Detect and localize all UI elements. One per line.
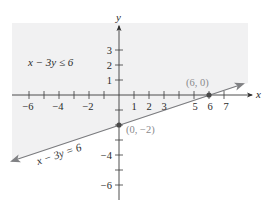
y-tick-label: 3 [107,45,112,56]
inequality-graph: y x −6 −4 −2 1 2 3 5 6 7 3 2 1 −4 −6 (6,… [0,0,265,213]
x-tick-label: 5 [192,101,197,112]
point-0-m2 [116,122,121,127]
shaded-region [12,23,248,161]
x-axis-label: x [255,88,261,100]
point-label-0-m2: (0, −2) [126,124,155,136]
x-tick-label: −2 [82,101,93,112]
x-tick-label: 3 [161,101,166,112]
y-tick-label: 1 [107,75,112,86]
x-tick-label: −6 [22,101,33,112]
point-label-6-0: (6, 0) [186,77,209,89]
x-tick-label: 7 [223,101,228,112]
x-tick-label: 6 [207,101,212,112]
x-tick-label: 1 [131,101,136,112]
x-tick-label: 2 [146,101,151,112]
y-tick-label: −6 [101,180,112,191]
point-6-0 [206,92,211,97]
x-tick-label: −4 [52,101,64,112]
y-axis-label: y [115,11,121,23]
y-tick-label: 2 [107,60,112,71]
y-tick-label: −4 [101,150,113,161]
inequality-label: x − 3y ≤ 6 [27,56,74,68]
